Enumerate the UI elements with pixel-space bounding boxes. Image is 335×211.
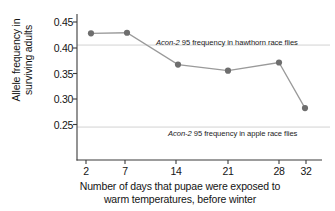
x-tick-label: 7 — [122, 165, 128, 177]
x-tick-label: 32 — [300, 165, 311, 177]
hawthorn-reference-annotation: Acon-2 95 frequency in hawthorn race fli… — [156, 38, 298, 47]
apple-gene-name: Acon-2 — [168, 129, 192, 138]
x-tick-label: 14 — [170, 165, 181, 177]
x-tick-label: 21 — [222, 165, 233, 177]
chart-figure: Allele frequency in surviving adults 0.4… — [0, 0, 335, 211]
apple-reference-annotation: Acon-2 95 frequency in apple race flies — [168, 129, 297, 138]
x-axis-title-line-2: warm temperatures, before winter — [30, 193, 330, 206]
hawthorn-gene-name: Acon-2 — [156, 38, 180, 47]
x-axis-title-line-1: Number of days that pupae were exposed t… — [30, 180, 330, 193]
x-axis-title: Number of days that pupae were exposed t… — [30, 180, 330, 206]
x-tick-label: 2 — [83, 165, 89, 177]
apple-annotation-text: 95 frequency in apple race flies — [192, 129, 298, 138]
hawthorn-annotation-text: 95 frequency in hawthorn race flies — [180, 38, 298, 47]
x-tick-label: 28 — [273, 165, 284, 177]
